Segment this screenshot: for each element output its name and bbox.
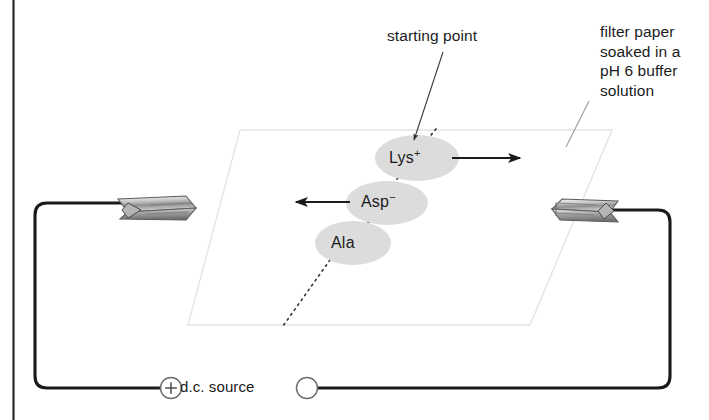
leader-starting-point — [414, 52, 443, 140]
spot-asp — [346, 181, 428, 225]
circuit-wire-left — [35, 203, 170, 388]
dc-source-label: d.c. source — [180, 377, 254, 397]
spot-ala — [315, 221, 391, 265]
electrophoresis-diagram: starting point filter paper soaked in a … — [0, 0, 709, 420]
electrode-clip-right — [552, 199, 618, 222]
dc-source-negative-terminal — [297, 378, 318, 399]
annotation-starting-point: starting point — [387, 26, 477, 46]
spot-lys — [375, 135, 459, 181]
electrode-clip-left — [118, 196, 196, 220]
annotation-filter-paper: filter paper soaked in a pH 6 buffer sol… — [600, 22, 680, 100]
